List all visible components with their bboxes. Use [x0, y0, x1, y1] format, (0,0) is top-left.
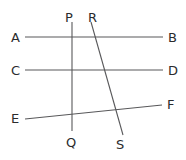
line-EF: [25, 105, 162, 119]
label-B: B: [168, 31, 177, 44]
geometry-figure: PRABCDEFQS: [0, 0, 186, 160]
label-E: E: [11, 112, 19, 125]
label-R: R: [88, 11, 97, 24]
line-RS: [91, 22, 123, 135]
label-S: S: [116, 138, 124, 151]
label-D: D: [168, 64, 178, 77]
label-C: C: [11, 64, 20, 77]
label-Q: Q: [66, 136, 76, 149]
lines-group: [25, 22, 163, 135]
label-F: F: [167, 98, 174, 111]
label-P: P: [65, 11, 73, 24]
label-A: A: [11, 31, 20, 44]
